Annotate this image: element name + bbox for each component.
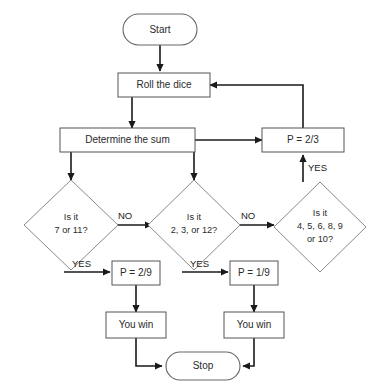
node-p-two-thirds-label: P = 2/3 <box>287 134 319 145</box>
edge-label-yes-right: YES <box>308 162 327 173</box>
node-decision-point-numbers[interactable]: Is it 4, 5, 6, 8, 9 or 10? <box>274 182 366 272</box>
node-determine-the-sum-label: Determine the sum <box>85 134 169 145</box>
node-decision-point-numbers-label-line3: or 10? <box>307 234 333 244</box>
node-you-win-left-label: You win <box>119 319 154 330</box>
node-start[interactable]: Start <box>123 14 197 45</box>
edge-label-no-left: NO <box>118 210 132 221</box>
node-roll-the-dice[interactable]: Roll the dice <box>118 73 210 97</box>
edge-label-yes-left: YES <box>72 258 91 269</box>
edge-label-yes-middle: YES <box>190 258 209 269</box>
node-determine-the-sum[interactable]: Determine the sum <box>60 128 195 152</box>
edge-you-win-left-to-stop <box>136 338 162 366</box>
node-decision-seven-or-eleven-label-line2: 7 or 11? <box>54 225 87 235</box>
node-decision-seven-or-eleven-label-line1: Is it <box>64 212 79 222</box>
node-p-one-ninth-label: P = 1/9 <box>238 267 270 278</box>
node-decision-seven-or-eleven[interactable]: Is it 7 or 11? <box>24 180 118 270</box>
node-start-label: Start <box>149 24 170 35</box>
node-decision-point-numbers-label-line1: Is it <box>313 208 328 218</box>
node-stop-label: Stop <box>193 360 214 371</box>
edge-loop-back-to-roll <box>210 85 303 128</box>
node-you-win-right[interactable]: You win <box>224 312 284 338</box>
node-decision-point-numbers-label-line2: 4, 5, 6, 8, 9 <box>297 221 343 231</box>
node-p-one-ninth[interactable]: P = 1/9 <box>230 261 278 285</box>
node-you-win-right-label: You win <box>237 319 272 330</box>
node-roll-the-dice-label: Roll the dice <box>136 79 191 90</box>
node-stop[interactable]: Stop <box>166 352 240 380</box>
node-decision-two-three-twelve-label-line2: 2, 3, or 12? <box>171 225 217 235</box>
node-decision-two-three-twelve-label-line1: Is it <box>187 212 202 222</box>
node-p-two-thirds[interactable]: P = 2/3 <box>262 128 344 152</box>
edge-you-win-right-to-stop <box>243 338 254 366</box>
node-p-two-ninths[interactable]: P = 2/9 <box>112 261 160 285</box>
node-p-two-ninths-label: P = 2/9 <box>120 267 152 278</box>
flowchart-canvas: Start Roll the dice Determine the sum P … <box>0 0 366 392</box>
node-decision-two-three-twelve[interactable]: Is it 2, 3, or 12? <box>148 180 240 270</box>
flowchart-svg: Start Roll the dice Determine the sum P … <box>0 0 366 392</box>
node-you-win-left[interactable]: You win <box>106 312 166 338</box>
edge-label-no-middle: NO <box>241 210 255 221</box>
